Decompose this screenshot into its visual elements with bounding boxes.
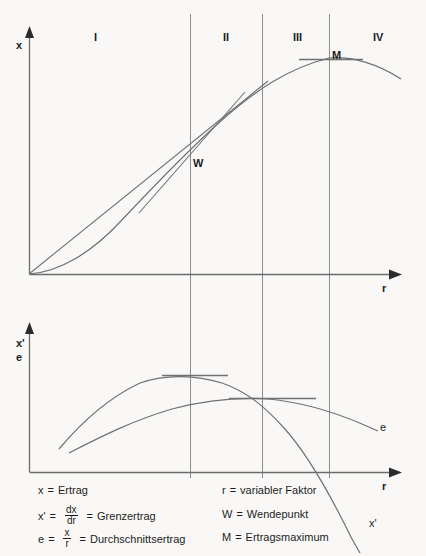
diagram-svg: [0, 0, 426, 556]
phase-divider-lines: [191, 14, 330, 478]
legend-item-ertragsmaximum: M = Ertragsmaximum: [222, 531, 329, 543]
legend-eq-5: =: [236, 508, 242, 520]
lower-y-axis-label-xprime: x': [16, 338, 25, 349]
curve-label-x-prime: x': [369, 518, 377, 529]
lower-x-axis-arrow: [389, 468, 402, 478]
upper-total-product-curve: [29, 58, 401, 274]
fraction-denominator-dr: dr: [65, 515, 78, 526]
phase-label-III: III: [293, 32, 302, 43]
lower-y-axis-arrow: [25, 322, 34, 334]
legend-item-wendepunkt: W = Wendepunkt: [222, 508, 308, 520]
fraction-denominator-r: r: [63, 538, 70, 549]
upper-y-axis-arrow: [25, 26, 34, 38]
legend-definition-ertrag: Ertrag: [58, 484, 88, 496]
upper-x-axis-label: r: [382, 283, 386, 294]
upper-x-axis-arrow: [389, 270, 402, 280]
figure-root: I II III IV x r W M x' e r e x' x = Ertr…: [0, 0, 426, 556]
legend-eq-4: =: [230, 484, 236, 496]
legend-eq-6: =: [235, 531, 241, 543]
phase-label-IV: IV: [373, 32, 383, 43]
upper-origin-ray: [29, 81, 268, 274]
upper-panel: [25, 26, 402, 280]
legend-symbol-m: M: [222, 531, 231, 543]
fraction-x-r: x r: [63, 528, 72, 549]
legend-item-variabler-faktor: r = variabler Faktor: [222, 484, 317, 496]
legend-item-grenzertrag: x' = dx dr = Grenzertrag: [38, 505, 156, 526]
legend-eq-2a: =: [50, 510, 56, 522]
fraction-numerator-x: x: [63, 528, 72, 538]
legend-eq-2b: =: [87, 510, 93, 522]
legend-item-durchschnittsertrag: e = x r = Durchschnittsertrag: [38, 528, 185, 549]
lower-y-axis-label-e: e: [16, 352, 22, 363]
legend-definition-variabler-faktor: variabler Faktor: [240, 484, 316, 496]
fraction-dx-dr: dx dr: [64, 505, 79, 526]
legend-definition-wendepunkt: Wendepunkt: [247, 508, 309, 520]
lower-x-axis-label: r: [382, 481, 386, 492]
lower-average-product-curve: [69, 398, 378, 453]
upper-y-axis-label: x: [16, 40, 22, 51]
legend-definition-durchschnittsertrag: Durchschnittsertrag: [90, 533, 185, 545]
phase-label-I: I: [94, 32, 97, 43]
legend-symbol-x: x: [38, 484, 44, 496]
fraction-numerator-dx: dx: [64, 505, 79, 515]
legend-symbol-e: e: [38, 533, 44, 545]
curve-label-e: e: [380, 422, 386, 433]
lower-marginal-product-curve: [59, 377, 360, 553]
legend-symbol-w: W: [222, 508, 232, 520]
legend-symbol-x-prime: x': [38, 510, 46, 522]
inflection-point-label-W: W: [193, 158, 203, 169]
legend-definition-ertragsmaximum: Ertragsmaximum: [246, 531, 329, 543]
legend-symbol-r: r: [222, 484, 226, 496]
legend-eq-3b: =: [80, 533, 86, 545]
legend-definition-grenzertrag: Grenzertrag: [97, 510, 156, 522]
legend-eq-1: =: [48, 484, 54, 496]
maximum-point-label-M: M: [332, 50, 341, 61]
legend-eq-3a: =: [48, 533, 54, 545]
upper-inflection-tangent: [139, 92, 245, 213]
legend-item-ertrag: x = Ertrag: [38, 484, 88, 496]
phase-label-II: II: [223, 32, 229, 43]
